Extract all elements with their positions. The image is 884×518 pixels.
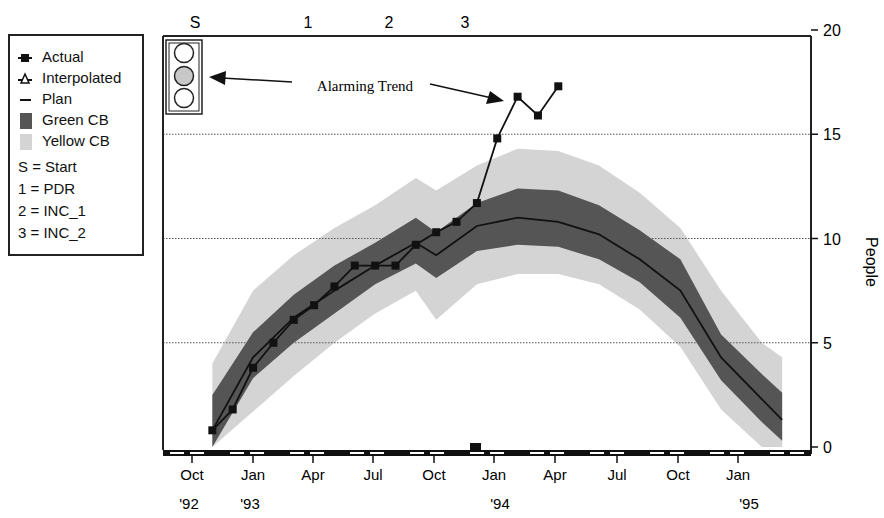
actual-point [249, 364, 257, 372]
milestone-marker-s: S [190, 14, 201, 31]
light-middle-icon [175, 67, 194, 86]
actual-point [229, 405, 237, 413]
y-tick-label: 0 [823, 439, 832, 456]
actual-point [392, 262, 400, 270]
actual-point [432, 228, 440, 236]
actual-point [371, 262, 379, 270]
x-year-label: '92 [179, 495, 199, 512]
x-tick-label: Jul [607, 466, 626, 483]
timeline-bar [163, 443, 811, 456]
arrow-right-icon [486, 91, 504, 104]
light-bottom-icon [175, 89, 194, 108]
traffic-light-indicator [166, 40, 202, 114]
x-axis: OctJanAprJulOctJanAprJulOctJan'92'93'94'… [179, 456, 759, 512]
actual-point [534, 111, 542, 119]
milestone-marker-1: 1 [304, 14, 313, 31]
actual-point [514, 93, 522, 101]
x-tick-label: Jan [482, 466, 506, 483]
milestone-marker-2: 2 [385, 14, 394, 31]
light-top-icon [175, 44, 194, 63]
svg-text:Alarming Trend: Alarming Trend [317, 78, 414, 94]
y-axis-label: People [863, 237, 880, 287]
x-year-label: '93 [240, 495, 260, 512]
y-axis: 05101520 [811, 22, 841, 456]
x-tick-label: Apr [543, 466, 566, 483]
alarming-trend-annotation: Alarming Trend [209, 71, 504, 104]
x-tick-label: Oct [422, 466, 446, 483]
actual-point [493, 134, 501, 142]
x-tick-label: Jan [241, 466, 265, 483]
actual-point [412, 241, 420, 249]
y-tick-label: 20 [823, 22, 841, 39]
y-tick-label: 5 [823, 335, 832, 352]
actual-point [554, 82, 562, 90]
x-tick-label: Apr [301, 466, 324, 483]
x-year-label: '94 [490, 495, 510, 512]
x-tick-label: Jul [363, 466, 382, 483]
x-tick-label: Jan [726, 466, 750, 483]
x-tick-label: Oct [180, 466, 204, 483]
actual-point [269, 339, 277, 347]
actual-point [473, 199, 481, 207]
chart-canvas: OctJanAprJulOctJanAprJulOctJan'92'93'94'… [0, 0, 884, 518]
actual-point [453, 218, 461, 226]
today-marker [470, 443, 481, 452]
x-year-label: '95 [739, 495, 759, 512]
y-tick-label: 15 [823, 126, 841, 143]
y-tick-label: 10 [823, 231, 841, 248]
arrow-left-icon [209, 71, 226, 85]
actual-point [290, 316, 298, 324]
actual-point [310, 301, 318, 309]
actual-point [351, 262, 359, 270]
actual-point [208, 426, 216, 434]
actual-point [330, 282, 338, 290]
confidence-bands [212, 149, 782, 447]
x-tick-label: Oct [666, 466, 690, 483]
milestone-marker-3: 3 [461, 14, 470, 31]
